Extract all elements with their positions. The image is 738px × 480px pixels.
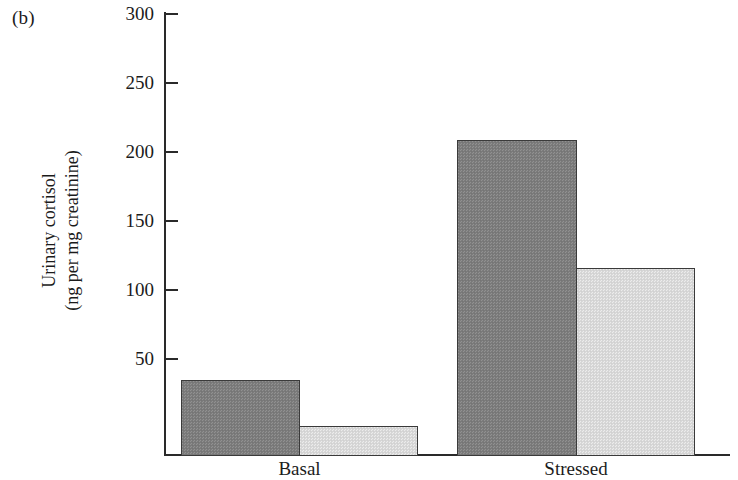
y-tick-label-200: 200 xyxy=(126,142,155,161)
y-tick-label-100: 100 xyxy=(126,280,155,299)
y-tick-50 xyxy=(164,358,178,360)
bar-stressed-dark xyxy=(457,140,577,456)
y-tick-100 xyxy=(164,289,178,291)
y-tick-300 xyxy=(164,13,178,15)
y-tick-label-150: 150 xyxy=(126,211,155,230)
y-tick-label-300-holder: 300 xyxy=(98,14,154,15)
y-tick-label-50: 50 xyxy=(135,349,154,368)
x-category-label-stressed: Stressed xyxy=(457,459,695,478)
y-axis-title-line1: Urinary cortisol xyxy=(38,150,61,310)
y-tick-label-50-holder: 50 xyxy=(98,359,154,360)
bar-basal-light xyxy=(299,426,418,456)
y-tick-250 xyxy=(164,82,178,84)
y-tick-label-250-holder: 250 xyxy=(98,83,154,84)
y-tick-200 xyxy=(164,151,178,153)
y-tick-label-300: 300 xyxy=(126,4,155,23)
bar-stressed-light xyxy=(576,268,695,456)
y-tick-label-100-holder: 100 xyxy=(98,290,154,291)
figure-panel-b: (b) Urinary cortisol (ng per mg creatini… xyxy=(0,0,738,480)
bar-basal-dark xyxy=(181,380,300,456)
panel-label: (b) xyxy=(12,8,35,27)
y-axis-line xyxy=(164,12,166,456)
y-tick-label-150-holder: 150 xyxy=(98,221,154,222)
y-tick-150 xyxy=(164,220,178,222)
y-tick-label-200-holder: 200 xyxy=(98,152,154,153)
y-axis-title-line2: (ng per mg creatinine) xyxy=(60,150,83,310)
y-axis-title: Urinary cortisol (ng per mg creatinine) xyxy=(14,0,106,460)
x-category-label-basal: Basal xyxy=(181,459,418,478)
y-tick-label-250: 250 xyxy=(126,73,155,92)
